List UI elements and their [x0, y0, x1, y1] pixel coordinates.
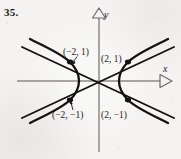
point-marker-top-right [125, 60, 131, 65]
asymptotes-group [22, 47, 174, 118]
point-marker-bottom-right [125, 98, 131, 103]
point-label-top-left: (−2, 1) [63, 47, 89, 58]
x-axis-label: x [162, 63, 168, 74]
point-label-bottom-right: (2, −1) [101, 110, 127, 121]
hyperbola-figure: x y [0, 0, 181, 159]
x-axis-arrow-icon [160, 75, 172, 88]
point-label-top-right: (2, 1) [101, 54, 122, 65]
figure-page: 35. x y [0, 0, 181, 159]
y-axis-label: y [103, 9, 109, 20]
point-label-bottom-left: (−2, −1) [52, 110, 83, 121]
